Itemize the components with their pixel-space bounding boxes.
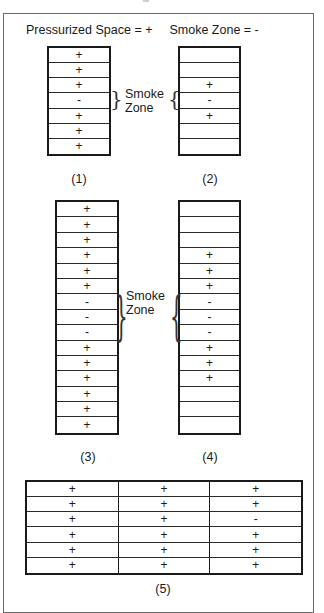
brace-icon: {	[170, 290, 183, 342]
floor-cell: +	[119, 497, 211, 511]
floor-cell: +	[119, 482, 211, 496]
smoke-zone-label-1: Smoke Zone	[125, 87, 164, 115]
floor-cell: +	[210, 482, 301, 496]
floor-14	[180, 217, 239, 232]
floor-2: +	[49, 124, 109, 139]
floor-8: -	[57, 310, 117, 325]
floor-row: +++	[27, 527, 301, 542]
floor-14: +	[57, 217, 117, 232]
floor-2	[180, 124, 239, 139]
floor-6: +	[57, 341, 117, 356]
caption-5: (5)	[143, 582, 183, 596]
floor-row: +++	[27, 543, 301, 558]
floor-3: +	[57, 387, 117, 402]
floor-cell: +	[210, 527, 301, 541]
floor-10: +	[180, 279, 239, 294]
floor-6	[180, 63, 239, 78]
cropped-title-remnant	[143, 0, 149, 2]
legend: Pressurized Space = +Smoke Zone = -	[26, 23, 259, 37]
floor-11: +	[180, 264, 239, 279]
floor-7	[180, 48, 239, 63]
building-diagram-3: ++++++---++++++	[55, 200, 119, 435]
floor-cell: +	[27, 482, 119, 496]
legend-smoke-zone: Smoke Zone = -	[169, 23, 258, 37]
floor-4: +	[180, 371, 239, 386]
floor-5: +	[57, 356, 117, 371]
floor-row: ++-	[27, 512, 301, 527]
floor-13	[180, 233, 239, 248]
floor-row: +++	[27, 482, 301, 497]
floor-2: +	[57, 402, 117, 417]
brace-icon: }	[110, 89, 123, 109]
building-diagram-1: +++-+++	[47, 46, 111, 156]
floor-row: +++	[27, 497, 301, 512]
floor-cell: +	[27, 543, 119, 557]
floor-1: +	[57, 417, 117, 432]
floor-2	[180, 402, 239, 417]
floor-9: -	[57, 294, 117, 309]
floor-5: +	[49, 78, 109, 93]
floor-3: +	[180, 109, 239, 124]
floor-cell: +	[27, 558, 119, 573]
floor-9: -	[180, 294, 239, 309]
floor-4: -	[180, 93, 239, 108]
floor-cell: +	[210, 558, 301, 573]
floor-11: +	[57, 264, 117, 279]
floor-cell: +	[27, 527, 119, 541]
building-diagram-2: +-+	[178, 46, 241, 156]
building-diagram-5: ++++++++-+++++++++	[25, 480, 303, 575]
brace-icon: {	[168, 89, 181, 109]
legend-pressurized: Pressurized Space = +	[26, 23, 152, 37]
caption-2: (2)	[190, 172, 230, 186]
floor-cell: +	[27, 512, 119, 526]
floor-3	[180, 387, 239, 402]
floor-4: +	[57, 371, 117, 386]
floor-12: +	[57, 248, 117, 263]
floor-1	[180, 139, 239, 154]
floor-15: +	[57, 202, 117, 217]
floor-6: +	[49, 63, 109, 78]
floor-1: +	[49, 139, 109, 154]
building-diagram-4: +++---+++	[178, 200, 241, 435]
floor-13: +	[57, 233, 117, 248]
floor-4: -	[49, 93, 109, 108]
caption-1: (1)	[59, 172, 99, 186]
floor-cell: +	[119, 512, 211, 526]
floor-15	[180, 202, 239, 217]
floor-cell: +	[210, 497, 301, 511]
floor-row: +++	[27, 558, 301, 573]
floor-cell: -	[210, 512, 301, 526]
floor-cell: +	[210, 543, 301, 557]
floor-3: +	[49, 109, 109, 124]
floor-12: +	[180, 248, 239, 263]
floor-10: +	[57, 279, 117, 294]
floor-cell: +	[119, 558, 211, 573]
floor-5: +	[180, 356, 239, 371]
floor-cell: +	[119, 527, 211, 541]
floor-7: -	[57, 325, 117, 340]
floor-7: +	[49, 48, 109, 63]
smoke-zone-label-3: Smoke Zone	[126, 289, 165, 317]
floor-1	[180, 417, 239, 432]
floor-cell: +	[27, 497, 119, 511]
caption-4: (4)	[190, 450, 230, 464]
caption-3: (3)	[68, 450, 108, 464]
floor-6: +	[180, 341, 239, 356]
floor-7: -	[180, 325, 239, 340]
floor-8: -	[180, 310, 239, 325]
floor-cell: +	[119, 543, 211, 557]
floor-5: +	[180, 78, 239, 93]
